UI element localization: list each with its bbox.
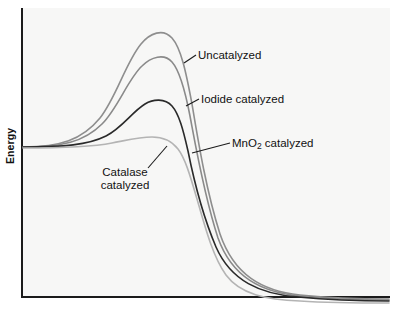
leader-line-uncatalyzed xyxy=(184,55,196,63)
curve-label-uncatalyzed: Uncatalyzed xyxy=(198,49,261,62)
curve-label-catalase-line2: catalyzed xyxy=(89,179,161,192)
leader-line-catalase xyxy=(148,146,167,168)
curve-mno2 xyxy=(23,100,389,301)
curve-label-mno2: MnO2 catalyzed xyxy=(232,137,313,151)
energy-diagram-figure: Energy Uncatalyzed Iodide catalyzed MnO2… xyxy=(0,0,403,310)
curve-label-mno2-suffix: catalyzed xyxy=(262,137,314,149)
curve-label-catalase: Catalase catalyzed xyxy=(89,166,161,192)
curve-label-iodide: Iodide catalyzed xyxy=(201,93,284,106)
curve-label-catalase-line1: Catalase xyxy=(89,166,161,179)
curve-uncatalyzed xyxy=(23,33,389,299)
y-axis-label: Energy xyxy=(4,120,16,172)
curve-label-mno2-subscript: 2 xyxy=(257,141,262,151)
leader-line-mno2 xyxy=(192,143,230,153)
curve-label-mno2-prefix: MnO xyxy=(232,137,257,149)
curves-svg xyxy=(0,0,403,310)
